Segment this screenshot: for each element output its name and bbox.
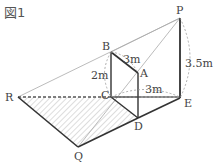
label-p: P xyxy=(176,4,184,17)
label-a: A xyxy=(139,67,149,80)
measure-pe: 3.5m xyxy=(185,57,213,70)
label-b: B xyxy=(102,40,110,53)
label-c: C xyxy=(101,89,109,102)
geometry-diagram: P B A C D E R Q 3m 2m 3m 3.5m xyxy=(0,0,214,168)
label-r: R xyxy=(5,91,14,104)
label-d: D xyxy=(134,120,143,133)
measure-ba: 3m xyxy=(123,53,141,66)
label-q: Q xyxy=(74,150,83,163)
label-e: E xyxy=(184,97,192,110)
measure-ce: 3m xyxy=(145,83,163,96)
measure-bc: 2m xyxy=(91,69,109,82)
